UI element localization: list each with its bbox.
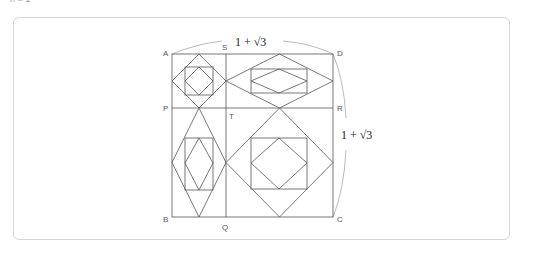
rhombus-bottom-right-outer (226, 108, 333, 217)
side-length-label: 1 + √3 (341, 128, 372, 142)
top-dimension-arc-right (283, 41, 333, 54)
rhombus-bottom-left-outer (172, 108, 226, 217)
label-d: D (337, 49, 343, 58)
label-t: T (229, 112, 234, 121)
rect-bottom-right-inner (251, 138, 307, 189)
rect-bottom-left-inner (185, 138, 213, 190)
rhombus-top-left-outer (172, 54, 226, 108)
geometry-figure: A S D P T R B Q C 1 + √3 1 + √3 (0, 0, 538, 253)
rhombus-bottom-left-inner (185, 138, 213, 190)
rhombus-bottom-right-inner (251, 138, 307, 189)
label-s: S (222, 43, 227, 52)
label-c: C (337, 215, 343, 224)
label-p: P (163, 104, 168, 113)
label-q: Q (222, 223, 228, 232)
rhombus-top-right-outer (226, 54, 333, 108)
rect-top-left-inner (185, 67, 213, 95)
rhombus-top-left-inner (185, 67, 213, 95)
rhombus-top-right-inner (251, 69, 307, 93)
side-dimension-arc-lower (333, 150, 346, 217)
label-r: R (337, 104, 343, 113)
top-length-label: 1 + √3 (235, 35, 266, 49)
rect-top-right-inner (251, 69, 307, 93)
top-dimension-arc (172, 41, 222, 54)
label-b: B (163, 215, 168, 224)
label-a: A (163, 49, 169, 58)
